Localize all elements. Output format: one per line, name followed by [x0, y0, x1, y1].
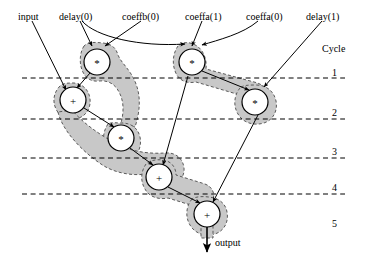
edge-add-1-to-multiply-4 [84, 108, 114, 127]
label-coeffb-0: coeffb(0) [122, 12, 159, 22]
leader-delay1-to-multiply-3 [264, 21, 322, 87]
cycle-label-1: 1 [332, 68, 337, 78]
label-coeffa-0: coeffa(0) [246, 12, 282, 22]
svg-text:+: + [204, 209, 210, 221]
lifetime-regions-group [54, 42, 277, 238]
svg-text:+: + [156, 172, 162, 184]
scheduling-diagram-canvas: * * + * * + + [0, 0, 365, 262]
multiply-node-4[interactable]: * [108, 125, 134, 151]
svg-text:*: * [252, 97, 258, 109]
label-delay-0: delay(0) [59, 12, 92, 22]
leader-input-to-add-1 [32, 21, 66, 90]
add-node-1[interactable]: + [60, 87, 86, 113]
cycle-label-2: 2 [332, 108, 337, 118]
label-coeffa-1: coeffa(1) [185, 12, 221, 22]
svg-text:+: + [70, 95, 76, 107]
add-node-3[interactable]: + [194, 201, 220, 227]
label-output: output [215, 238, 241, 248]
cycle-label-5: 5 [332, 219, 337, 229]
add-node-2[interactable]: + [146, 164, 172, 190]
multiply-node-3[interactable]: * [242, 89, 268, 115]
edge-multiply-3-to-add-3 [213, 115, 258, 202]
cycle-label-4: 4 [332, 183, 337, 193]
edge-multiply-2-to-add-2 [163, 76, 188, 165]
svg-text:*: * [94, 57, 100, 69]
leader-delay0-to-multiply-2 [82, 21, 185, 45]
svg-text:*: * [189, 57, 195, 69]
diagram-svg: * * + * * + + [0, 0, 365, 262]
label-input: input [18, 12, 39, 22]
multiply-node-1[interactable]: * [84, 49, 110, 75]
edge-multiply-1-to-add-1 [77, 73, 90, 88]
cycle-axis-header: Cycle [322, 44, 345, 54]
leader-coeffa1-to-multiply-2 [192, 21, 202, 46]
label-delay-1: delay(1) [306, 12, 339, 22]
cycle-label-3: 3 [332, 147, 337, 157]
multiply-node-2[interactable]: * [179, 49, 205, 75]
svg-text:*: * [118, 133, 124, 145]
leader-coeffa0-to-multiply-2 [202, 21, 258, 45]
